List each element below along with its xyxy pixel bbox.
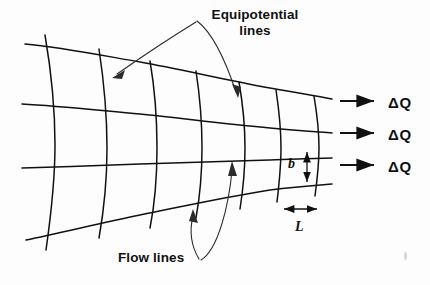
flow-line-2 [22,104,332,133]
equipotential-lines-group [45,35,319,250]
equipotential-line-2 [99,49,107,238]
scan-speck [404,252,407,260]
flow-line-1 [25,44,332,99]
equipotential-line-1 [45,35,55,250]
flow-net-svg [0,0,430,285]
discharge-label-2: ΔQ [388,126,412,144]
flow-line-3 [22,158,332,168]
discharge-label-1: ΔQ [388,94,412,112]
flow-lines-callout-leaders [189,161,237,260]
equipotential-leader-left [117,22,196,74]
dimension-b-label: b [288,156,295,173]
flow-lines-leader-right-arrowhead [228,161,237,176]
flow-net-figure: Equipotentiallines Flow lines b L ΔQ ΔQ … [0,0,430,285]
dimension-L-label: L [295,219,304,236]
equipotential-line-3 [150,61,157,228]
equipotential-label-line-2: lines [239,23,270,38]
equipotential-lines-label: Equipotentiallines [203,7,307,39]
discharge-arrows-group [340,101,374,165]
equipotential-label-line-1: Equipotential [212,7,299,22]
equipotential-line-7 [314,96,319,196]
equipotential-line-5 [239,82,245,209]
equipotential-line-6 [276,90,281,202]
flow-lines-label: Flow lines [118,250,208,266]
equipotential-line-4 [196,71,202,218]
equipotential-leader-left-arrowhead [112,70,125,79]
flow-lines-group [22,44,332,240]
flow-lines-leader-right [201,170,232,260]
flow-line-4 [26,184,332,240]
discharge-label-3: ΔQ [388,158,412,176]
